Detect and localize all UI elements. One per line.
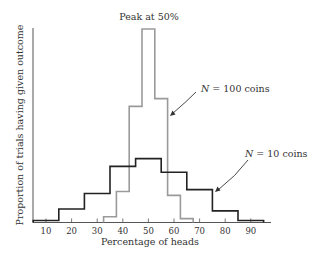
- n100-arrow: [172, 92, 196, 114]
- x-tick-label: 90: [245, 226, 256, 236]
- y-axis-title: Proportion of trials having given outcom…: [14, 24, 25, 225]
- x-axis-title: Percentage of heads: [101, 236, 199, 247]
- n10-label: N = 10 coins: [244, 148, 308, 159]
- n10-histogram: [33, 159, 263, 223]
- n10-label-rest: = 10 coins: [253, 148, 307, 159]
- n100-label: N = 100 coins: [200, 83, 270, 94]
- peak-annotation: Peak at 50%: [119, 11, 179, 22]
- axes: 102030405060708090: [33, 28, 271, 236]
- n100-histogram: [104, 29, 194, 223]
- x-tick-label: 60: [169, 226, 180, 236]
- x-ticks: 102030405060708090: [41, 219, 257, 236]
- x-tick-label: 80: [220, 226, 231, 236]
- histogram-chart: 102030405060708090 Peak at 50% N = 100 c…: [0, 0, 323, 264]
- x-tick-label: 70: [194, 226, 205, 236]
- x-tick-label: 40: [117, 226, 128, 236]
- n100-label-rest: = 100 coins: [209, 83, 269, 94]
- n10-arrow: [218, 160, 248, 190]
- x-tick-label: 10: [41, 226, 52, 236]
- x-tick-label: 20: [66, 226, 77, 236]
- x-tick-label: 30: [92, 226, 103, 236]
- x-tick-label: 50: [143, 226, 154, 236]
